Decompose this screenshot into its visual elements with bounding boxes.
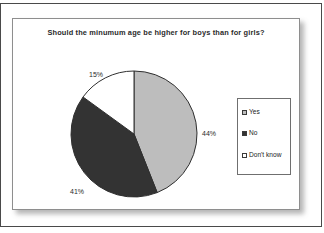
- chart-panel: Should the minumum age be higher for boy…: [12, 18, 300, 210]
- legend-item-no[interactable]: No: [242, 130, 257, 137]
- outer-frame: Should the minumum age be higher for boy…: [0, 3, 322, 227]
- pie-chart: [69, 69, 199, 199]
- legend-swatch-yes-icon: [242, 110, 247, 115]
- pie-label-no: 41%: [70, 188, 84, 195]
- pie-label-dont-know: 15%: [89, 71, 103, 78]
- legend-label-yes: Yes: [249, 109, 260, 116]
- legend-item-dont-know[interactable]: Don't know: [242, 152, 281, 159]
- chart-title: Should the minumum age be higher for boy…: [13, 28, 299, 37]
- legend-item-yes[interactable]: Yes: [242, 109, 260, 116]
- chart-legend: Yes No Don't know: [237, 98, 291, 175]
- legend-swatch-no-icon: [242, 131, 247, 136]
- legend-swatch-dont-know-icon: [242, 153, 247, 158]
- pie-label-yes: 44%: [202, 130, 216, 137]
- legend-label-dont-know: Don't know: [249, 152, 281, 159]
- pie-chart-svg: [69, 69, 199, 199]
- legend-label-no: No: [249, 130, 257, 137]
